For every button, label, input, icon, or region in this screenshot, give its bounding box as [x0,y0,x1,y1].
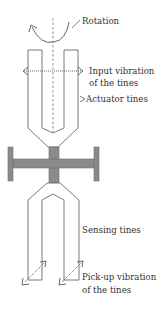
sensing-tines [28,183,79,280]
actuator-tines-pointer-icon [80,96,85,102]
pickup-vibration-label-line2: of the tines [82,285,131,295]
pickup-vibration-label-line1: Pick-up vibration [82,272,156,282]
rotation-arrow-icon [29,22,69,42]
tuning-fork-gyroscope-diagram [0,0,167,309]
base-body [8,147,99,183]
rotation-label: Rotation [82,16,119,26]
sensing-tines-label: Sensing tines [82,225,141,235]
input-vibration-label-line1: Input vibration [89,66,154,76]
input-vibration-label-line2: of the tines [89,78,138,88]
rotation-leader-line [72,20,80,28]
actuator-tines-label: Actuator tines [86,94,148,104]
